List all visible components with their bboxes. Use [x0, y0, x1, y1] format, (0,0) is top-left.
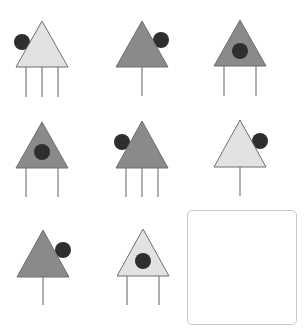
- figure-8: [117, 229, 169, 305]
- figure-2: [116, 21, 169, 96]
- answer-box[interactable]: [187, 210, 297, 325]
- figure-7: [17, 230, 71, 305]
- figure-1: [14, 21, 68, 97]
- dot-icon: [232, 43, 248, 59]
- figure-4: [16, 122, 68, 197]
- figure-6: [214, 120, 268, 196]
- figure-3: [214, 20, 266, 96]
- dot-icon: [34, 144, 50, 160]
- figure-5: [114, 121, 168, 197]
- dot-icon: [135, 253, 151, 269]
